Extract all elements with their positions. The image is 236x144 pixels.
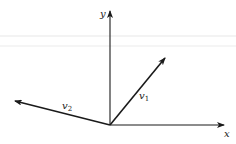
x-axis-label: x <box>224 128 230 139</box>
vector-v1-label-subscript: 1 <box>145 95 149 103</box>
vector-v1 <box>110 58 165 125</box>
vector-v1-label: v1 <box>139 90 149 103</box>
vector-v2-label-subscript: 2 <box>68 105 72 113</box>
vector-v2-label: v2 <box>62 100 72 113</box>
scan-artifact-lines <box>0 36 236 46</box>
vector-diagram: y x v1 v2 <box>0 0 236 144</box>
y-axis-label: y <box>99 8 106 19</box>
